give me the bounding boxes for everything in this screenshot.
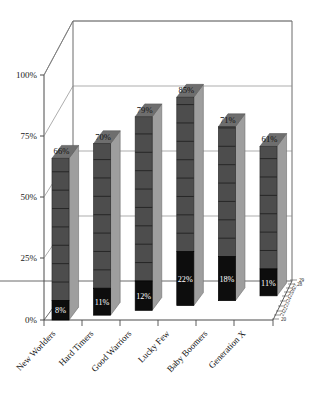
category-labels: New WorldersHard TimersGood WarriorsLuck… — [14, 328, 248, 374]
bar-4[interactable] — [177, 84, 204, 305]
depth-tick-label-29: 29 — [299, 277, 305, 283]
bar-top-label-2: 70% — [95, 132, 111, 142]
bar-chart-3d: 100% 75% 50% 25% 0% — [0, 0, 312, 405]
bar-base-label-6: 11% — [261, 279, 276, 288]
bar-base-label-5: 18% — [219, 275, 234, 284]
y-tick-label-25: 25% — [21, 253, 38, 263]
floor-plane — [44, 281, 292, 320]
category-label-2: Hard Timers — [57, 328, 96, 368]
bar-top-label-4: 85% — [178, 85, 194, 95]
bar-5[interactable] — [218, 114, 245, 301]
category-label-5: Baby Boomers — [165, 328, 210, 374]
bar-side-face — [152, 104, 162, 310]
bar-front-face — [94, 144, 111, 289]
category-label-4: Lucky Few — [136, 328, 172, 365]
bar-top-label-1: 66% — [54, 146, 70, 156]
y-tick-label-100: 100% — [16, 70, 38, 80]
bar-3[interactable] — [135, 104, 162, 310]
bar-2[interactable] — [94, 131, 121, 315]
bar-1[interactable] — [52, 145, 79, 320]
chart-container: 100% 75% 50% 25% 0% — [0, 0, 312, 405]
bar-base-label-3: 12% — [136, 292, 151, 301]
category-label-3: Good Warriors — [89, 328, 134, 374]
bar-base-label-4: 22% — [178, 275, 193, 284]
bar-side-face — [69, 145, 79, 320]
bar-front-face — [177, 97, 194, 251]
bar-base-label-1: 8% — [55, 306, 66, 315]
bar-side-face — [194, 84, 204, 305]
bar-top-label-5: 71% — [220, 115, 236, 125]
category-label-6: Generation X — [206, 328, 247, 370]
bar-front-face — [135, 117, 152, 281]
bar-top-label-6: 61% — [262, 134, 278, 144]
x-axis — [44, 320, 273, 326]
y-tick-label-50: 50% — [21, 192, 38, 202]
y-tick-label-0: 0% — [25, 315, 38, 325]
bar-side-face — [277, 134, 287, 296]
bar-base-label-2: 11% — [95, 298, 110, 307]
bar-6[interactable] — [260, 134, 287, 296]
category-label-1: New Worlders — [14, 328, 58, 373]
bar-front-face — [52, 158, 69, 300]
chart-frame — [44, 21, 292, 320]
y-tick-label-75: 75% — [21, 131, 38, 141]
bar-top-label-3: 79% — [137, 105, 153, 115]
bar-side-face — [235, 114, 245, 301]
bar-side-face — [111, 131, 121, 315]
